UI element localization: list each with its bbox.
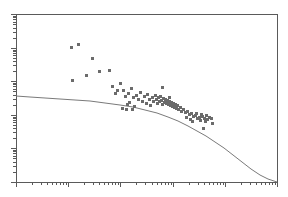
data-points (70, 43, 214, 130)
data-point-marker (195, 112, 198, 115)
data-point-marker (108, 69, 111, 72)
data-point-marker (204, 120, 207, 123)
data-point-marker (179, 106, 182, 109)
data-point-marker (210, 117, 213, 120)
data-point-marker (186, 110, 189, 113)
data-point-marker (149, 104, 152, 107)
data-point-marker (121, 107, 124, 110)
data-point-marker (145, 102, 148, 105)
data-point-marker (111, 85, 114, 88)
data-point-marker (135, 94, 138, 97)
data-point-marker (124, 95, 127, 98)
data-point-marker (191, 120, 194, 123)
data-point-marker (132, 96, 135, 99)
data-point-marker (202, 127, 205, 130)
data-point-marker (85, 74, 88, 77)
data-point-marker (141, 100, 144, 103)
data-point-marker (203, 117, 206, 120)
fit-curve (16, 96, 277, 182)
data-point-marker (128, 101, 131, 104)
data-point-marker (161, 86, 164, 89)
data-point-marker (168, 96, 171, 99)
data-point-marker (125, 108, 128, 111)
data-point-marker (154, 94, 157, 97)
data-point-marker (122, 89, 125, 92)
data-point-marker (159, 95, 162, 98)
data-point-marker (146, 93, 149, 96)
data-point-marker (131, 108, 134, 111)
data-point-marker (116, 89, 119, 92)
data-point-marker (114, 92, 117, 95)
data-point-marker (139, 91, 142, 94)
data-point-marker (200, 113, 203, 116)
data-point-marker (127, 92, 130, 95)
data-point-marker (143, 95, 146, 98)
data-point-marker (198, 116, 201, 119)
data-point-marker (70, 46, 73, 49)
data-point-marker (176, 104, 179, 107)
scatter-plot (0, 0, 288, 197)
data-point-marker (130, 87, 133, 90)
data-point-marker (205, 114, 208, 117)
data-point-marker (190, 112, 193, 115)
data-point-marker (148, 98, 151, 101)
chart-figure (0, 0, 288, 197)
data-point-marker (151, 96, 154, 99)
y-axis-ticks (11, 15, 16, 183)
data-point-marker (98, 70, 101, 73)
data-point-marker (199, 119, 202, 122)
data-point-marker (71, 79, 74, 82)
data-point-marker (91, 57, 94, 60)
data-point-marker (185, 116, 188, 119)
fit-curve-path (16, 96, 277, 182)
data-point-marker (182, 108, 185, 111)
data-point-marker (152, 100, 155, 103)
data-point-marker (137, 98, 140, 101)
data-point-marker (211, 122, 214, 125)
data-point-marker (133, 105, 136, 108)
data-point-marker (77, 43, 80, 46)
data-point-marker (119, 82, 122, 85)
